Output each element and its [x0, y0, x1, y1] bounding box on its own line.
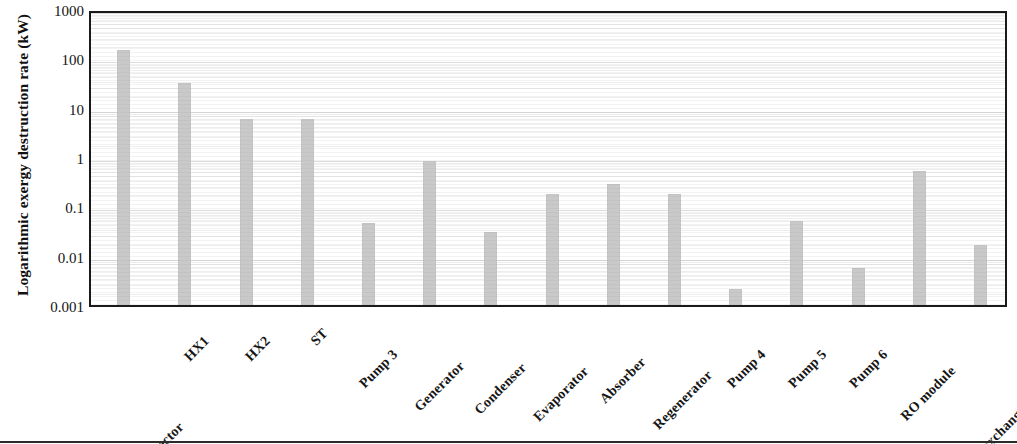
- x-axis-tick-label: Pump 6: [846, 347, 891, 392]
- x-axis-tick-label: HX1: [181, 333, 213, 365]
- x-axis-tick-labels: Parabolic solar collectorHX1HX2STPump 3G…: [0, 0, 1017, 444]
- x-axis-tick-label: RO module: [898, 363, 959, 424]
- x-axis-tick-label: Evaporator: [531, 363, 593, 425]
- x-axis-tick-label: Pump 3: [357, 347, 402, 392]
- figure-bottom-rule: [0, 441, 1017, 443]
- x-axis-tick-label: Absorber: [597, 354, 650, 407]
- x-axis-tick-label: Pump 5: [785, 347, 830, 392]
- x-axis-tick-label: ST: [308, 325, 332, 349]
- x-axis-tick-label: Generator: [411, 358, 468, 415]
- exergy-destruction-bar-chart: Logarithmic exergy destruction rate (kW)…: [0, 0, 1017, 444]
- x-axis-tick-label: Pump 4: [724, 347, 769, 392]
- x-axis-tick-label: Regenerator: [651, 367, 717, 433]
- x-axis-tick-label: Pressure exchanger: [939, 398, 1017, 444]
- x-axis-tick-label: HX2: [242, 333, 274, 365]
- x-axis-tick-label: Condenser: [471, 360, 529, 418]
